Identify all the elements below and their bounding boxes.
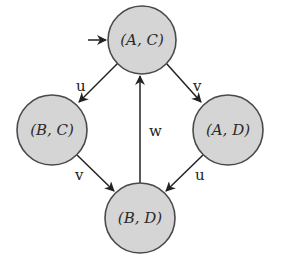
- state-label: (A, D): [206, 121, 250, 139]
- state-diagram: u v v u w (A, C) (B, C) (A, D) (B, D): [0, 0, 281, 265]
- edge-label-v: v: [192, 77, 202, 95]
- node-a-d: (A, D): [193, 95, 263, 165]
- state-label: (B, C): [30, 121, 74, 139]
- edge-label-w: w: [149, 122, 162, 140]
- node-b-d: (B, D): [105, 183, 175, 253]
- edge-ac-to-ad: v: [166, 63, 202, 102]
- edge-ac-to-bc: u: [76, 63, 118, 102]
- edge-label-u: u: [76, 77, 86, 95]
- edge-label-v: v: [74, 166, 84, 184]
- edge-bc-to-bd: v: [74, 155, 114, 191]
- edge-bd-to-ac: w: [140, 76, 162, 183]
- edge-ad-to-bd: u: [166, 155, 205, 191]
- node-b-c: (B, C): [17, 95, 87, 165]
- edge-label-u: u: [195, 166, 205, 184]
- state-label: (A, C): [120, 31, 164, 49]
- node-a-c: (A, C): [108, 6, 176, 74]
- state-label: (B, D): [118, 209, 162, 227]
